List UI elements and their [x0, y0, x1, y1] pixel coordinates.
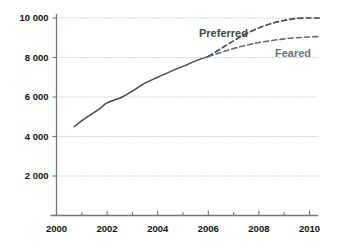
chart-background: [0, 0, 346, 246]
line-chart: 2 0004 0006 0008 00010 000 2000200220042…: [0, 0, 346, 246]
series-label-feared: Feared: [275, 47, 311, 59]
y-axis-tick-label: 6 000: [25, 91, 49, 102]
chart-container: 2 0004 0006 0008 00010 000 2000200220042…: [0, 0, 346, 246]
y-axis-tick-label: 10 000: [19, 12, 48, 23]
x-axis-tick-label: 2004: [147, 223, 169, 234]
x-axis-tick-label: 2010: [299, 223, 320, 234]
y-axis-tick-label: 8 000: [25, 52, 49, 63]
x-axis-tick-label: 2000: [46, 223, 67, 234]
x-axis-tick-label: 2006: [198, 223, 219, 234]
y-axis-tick-label: 2 000: [25, 170, 49, 181]
y-axis-tick-label: 4 000: [25, 131, 49, 142]
x-axis-tick-label: 2002: [97, 223, 118, 234]
x-axis-tick-label: 2008: [248, 223, 269, 234]
series-label-preferred: Preferred: [199, 27, 248, 39]
